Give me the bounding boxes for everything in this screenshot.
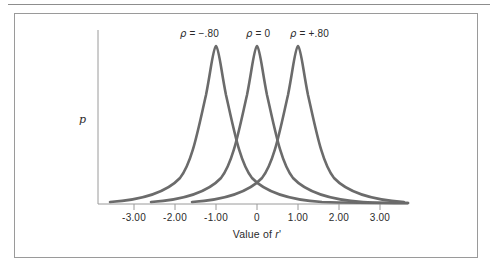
distribution-curves xyxy=(110,46,408,203)
curve-rho-zero xyxy=(151,46,408,203)
curve-rho-pos-080 xyxy=(192,46,404,202)
rho-symbol-zero: ρ xyxy=(246,28,253,39)
curve-label-rho-pos-080: ρ = +.80 xyxy=(290,28,329,39)
x-axis-title-prime: ' xyxy=(279,228,281,240)
rho-value-zero: = 0 xyxy=(256,28,271,39)
tick-label-pos2: 2.00 xyxy=(329,212,349,223)
rho-symbol-neg: ρ xyxy=(180,28,187,39)
x-axis-title-text: Value of xyxy=(233,228,275,240)
figure-root: ρ = −.80 ρ = 0 ρ = +.80 p -3.00 -2.00 -1… xyxy=(0,0,497,272)
y-axis-label: p xyxy=(79,113,86,126)
x-axis-ticks xyxy=(134,204,380,210)
tick-label-neg1: -1.00 xyxy=(204,212,228,223)
rho-value-neg: = −.80 xyxy=(190,28,220,39)
x-axis-title: Value of r' xyxy=(233,228,281,240)
tick-label-pos3: 3.00 xyxy=(370,212,390,223)
tick-label-pos1: 1.00 xyxy=(288,212,308,223)
rho-symbol-pos: ρ xyxy=(290,28,297,39)
curve-label-rho-neg-080: ρ = −.80 xyxy=(180,28,219,39)
tick-label-neg2: -2.00 xyxy=(163,212,187,223)
curve-label-rho-zero: ρ = 0 xyxy=(246,28,270,39)
tick-label-neg3: -3.00 xyxy=(122,212,146,223)
tick-label-zero: 0 xyxy=(254,212,260,223)
rho-value-pos: = +.80 xyxy=(300,28,330,39)
